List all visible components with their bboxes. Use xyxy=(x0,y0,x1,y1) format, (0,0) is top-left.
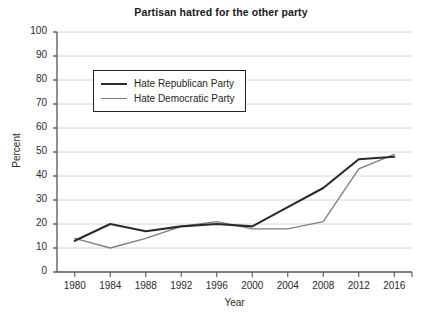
legend-item-hate-democratic-party: Hate Democratic Party xyxy=(101,91,235,106)
x-tick-label: 1996 xyxy=(197,280,237,291)
data-line-hate-republican-party xyxy=(75,157,395,241)
x-tick-label: 1984 xyxy=(90,280,130,291)
y-tick-label: 80 xyxy=(21,73,47,84)
legend-item-hate-republican-party: Hate Republican Party xyxy=(101,76,235,91)
plot-area xyxy=(0,0,442,319)
x-tick-label: 1980 xyxy=(55,280,95,291)
x-tick-label: 1992 xyxy=(161,280,201,291)
y-tick-label: 70 xyxy=(21,97,47,108)
y-tick-label: 30 xyxy=(21,193,47,204)
chart-container: Partisan hatred for the other party 0102… xyxy=(0,0,442,319)
x-tick-label: 2008 xyxy=(303,280,343,291)
x-axis-title: Year xyxy=(57,297,412,308)
x-tick-label: 2004 xyxy=(268,280,308,291)
legend-label-republican: Hate Republican Party xyxy=(134,78,234,89)
y-tick-label: 90 xyxy=(21,49,47,60)
x-tick-marks-group xyxy=(75,272,412,277)
legend-label-democratic: Hate Democratic Party xyxy=(134,93,235,104)
legend-line-swatch-democratic xyxy=(101,98,127,99)
legend-line-swatch-republican xyxy=(101,83,127,85)
y-tick-label: 60 xyxy=(21,121,47,132)
y-tick-label: 40 xyxy=(21,169,47,180)
x-tick-label: 2000 xyxy=(232,280,272,291)
y-tick-label: 20 xyxy=(21,217,47,228)
x-tick-label: 2016 xyxy=(374,280,414,291)
gridlines-group xyxy=(57,32,412,248)
y-tick-label: 50 xyxy=(21,145,47,156)
chart-legend: Hate Republican Party Hate Democratic Pa… xyxy=(93,70,246,112)
y-axis-title: Percent xyxy=(11,121,22,181)
x-tick-label: 2012 xyxy=(339,280,379,291)
y-tick-label: 10 xyxy=(21,241,47,252)
y-tick-label: 100 xyxy=(21,25,47,36)
y-tick-label: 0 xyxy=(21,265,47,276)
x-tick-label: 1988 xyxy=(126,280,166,291)
